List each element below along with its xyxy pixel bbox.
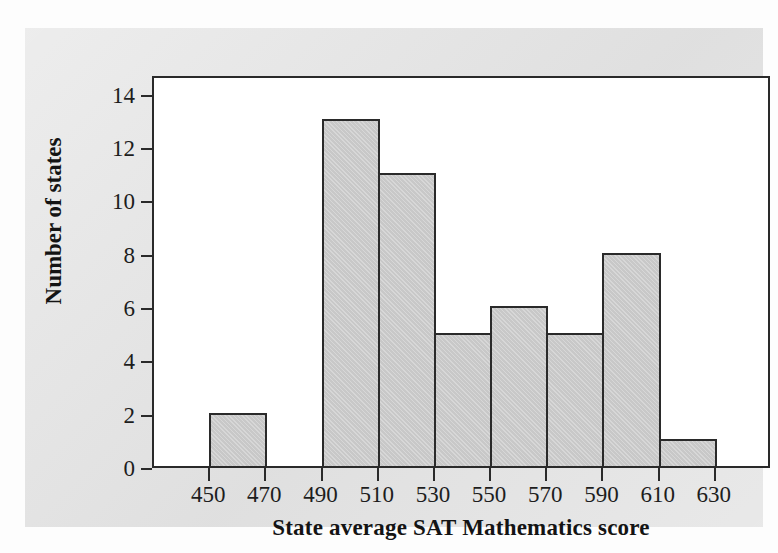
y-axis-tick	[141, 415, 152, 417]
x-axis-tick-label: 530	[416, 483, 451, 506]
plot-frame	[152, 76, 770, 468]
x-axis-tick-label: 630	[697, 483, 732, 506]
x-axis-tick-label: 510	[359, 483, 394, 506]
x-axis-tick-label: 470	[247, 483, 282, 506]
x-axis-tick-label: 570	[528, 483, 563, 506]
bars-container	[154, 78, 768, 466]
y-axis-tick-label: 2	[124, 403, 136, 426]
y-axis-tick-label: 6	[124, 297, 136, 320]
y-axis-tick	[141, 468, 152, 470]
x-axis-tick	[264, 468, 266, 481]
y-axis-tick	[141, 361, 152, 363]
histogram-bar	[659, 439, 717, 466]
y-axis-tick	[141, 308, 152, 310]
histogram-bar	[602, 253, 660, 466]
y-axis-tick-label: 8	[124, 243, 136, 266]
x-axis-tick	[489, 468, 491, 481]
y-axis-tick-label: 0	[124, 457, 136, 480]
y-axis-tick-label: 14	[112, 83, 135, 106]
x-axis-tick-label: 590	[584, 483, 619, 506]
y-axis-tick	[141, 95, 152, 97]
x-axis-tick	[658, 468, 660, 481]
x-axis-tick	[377, 468, 379, 481]
x-axis-tick	[208, 468, 210, 481]
x-axis-tick	[321, 468, 323, 481]
y-axis-tick	[141, 148, 152, 150]
figure-panel: 02468101214 4504704905105305505705906106…	[25, 28, 763, 527]
y-axis-tick-labels: 02468101214	[97, 28, 135, 553]
histogram-bar	[209, 413, 267, 466]
y-axis-title: Number of states	[41, 96, 67, 346]
figure-page: 02468101214 4504704905105305505705906106…	[0, 0, 778, 553]
x-axis-tick-label: 450	[191, 483, 226, 506]
y-axis-tick-label: 10	[112, 190, 135, 213]
histogram-bar	[434, 333, 492, 466]
histogram-bar	[546, 333, 604, 466]
y-axis-tick-label: 12	[112, 137, 135, 160]
x-axis-tick-label: 550	[472, 483, 507, 506]
x-axis-tick	[433, 468, 435, 481]
x-axis-tick	[601, 468, 603, 481]
y-axis-tick-label: 4	[124, 350, 136, 373]
x-axis-tick	[714, 468, 716, 481]
histogram-bar	[490, 306, 548, 466]
x-axis-tick	[545, 468, 547, 481]
histogram-bar	[378, 173, 436, 466]
y-axis-tick	[141, 201, 152, 203]
x-axis-title: State average SAT Mathematics score	[152, 515, 770, 541]
x-axis-tick-label: 610	[640, 483, 675, 506]
histogram-bar	[322, 119, 380, 466]
x-axis-tick-label: 490	[303, 483, 338, 506]
y-axis-tick	[141, 255, 152, 257]
